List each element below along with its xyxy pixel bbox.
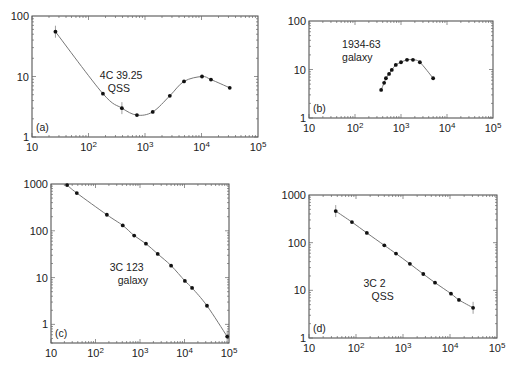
data-point [418,60,422,64]
data-point [209,78,213,82]
data-point [405,58,409,62]
data-point [132,234,136,238]
x-tick-label: 105 [250,140,267,153]
data-point [387,72,391,76]
panel-d: 1010210310410511010010003C 2QSS(d) [282,189,506,354]
plot-frame [32,16,258,137]
source-annotation: 3C 123 [110,261,144,273]
data-point [75,191,79,195]
data-point [394,63,398,67]
y-tick-label: 1000 [282,189,306,201]
data-point [156,252,160,256]
y-tick-label: 100 [11,10,29,22]
y-tick-label: 100 [30,225,48,237]
data-point [65,183,69,187]
x-tick-label: 104 [439,121,456,134]
data-point [411,58,415,62]
x-tick-label: 103 [137,140,154,153]
data-point [190,286,194,290]
x-tick-label: 10 [45,347,57,359]
x-tick-label: 105 [221,346,238,359]
y-tick-label: 1000 [24,178,48,190]
x-tick-label: 102 [348,341,365,354]
data-point [382,81,386,85]
source-annotation: 3C 2 [364,277,386,289]
x-tick-label: 103 [132,346,149,359]
spectra-figure: 101021031041051101004C 39.25QSS(a)101021… [0,0,520,375]
x-tick-label: 103 [393,121,410,134]
data-point [365,231,369,235]
data-point [449,292,453,296]
fit-curve [67,185,227,336]
data-point [120,106,124,110]
data-point [121,224,125,228]
y-tick-label: 1 [42,318,48,330]
data-point [384,76,388,80]
source-annotation: galaxy [118,274,149,286]
data-point [54,30,58,34]
y-tick-label: 10 [17,71,29,83]
data-point [182,79,186,83]
data-point [168,94,172,98]
data-point [151,110,155,114]
data-point [334,209,338,213]
data-point [169,264,173,268]
y-tick-label: 1 [300,332,306,344]
y-tick-label: 1 [23,131,29,143]
panel-label: (a) [36,121,49,133]
data-point [350,220,354,224]
data-point [183,279,187,283]
y-tick-label: 10 [294,64,306,76]
x-tick-label: 104 [176,346,193,359]
panel-a: 101021031041051101004C 39.25QSS(a) [11,10,267,153]
data-point [457,298,461,302]
data-point [471,306,475,310]
x-tick-label: 103 [395,341,412,354]
data-point [394,252,398,256]
data-point [433,281,437,285]
fit-curve [55,32,229,116]
x-tick-label: 105 [489,341,506,354]
source-annotation: 4C 39.25 [100,69,143,81]
source-annotation: QSS [108,82,130,94]
source-annotation: QSS [372,290,394,302]
panel-c: 1010210310410511010010003C 123galaxy(c) [24,178,238,359]
source-annotation: galaxy [342,51,373,63]
panel-b: 101021031041051101001934-63galaxy(b) [288,15,502,134]
data-point [390,68,394,72]
plot-frame [309,195,497,338]
data-point [205,304,209,308]
data-point [399,60,403,64]
data-point [382,243,386,247]
panel-label: (b) [313,102,326,114]
y-tick-label: 100 [288,237,306,249]
data-point [200,75,204,79]
y-tick-label: 10 [294,284,306,296]
data-point [408,262,412,266]
panel-label: (d) [313,322,326,334]
data-point [101,92,105,96]
data-point [228,86,232,90]
data-point [431,76,435,80]
panel-label: (c) [55,327,67,339]
x-tick-label: 102 [347,121,364,134]
data-point [225,335,229,339]
data-point [379,88,383,92]
y-tick-label: 100 [288,15,306,27]
source-annotation: 1934-63 [342,38,381,50]
data-point [144,242,148,246]
x-tick-label: 104 [442,341,459,354]
x-tick-label: 104 [193,140,210,153]
data-point [421,272,425,276]
x-tick-label: 105 [485,121,502,134]
x-tick-label: 102 [80,140,97,153]
data-point [105,213,109,217]
y-tick-label: 1 [300,112,306,124]
x-tick-label: 102 [87,346,104,359]
data-point [135,113,139,117]
y-tick-label: 10 [36,272,48,284]
plot-frame [309,21,493,118]
